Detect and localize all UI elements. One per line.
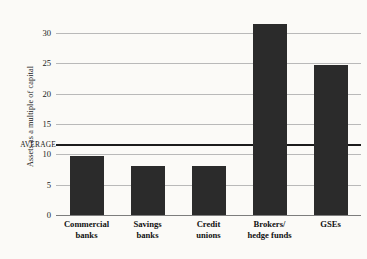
x-axis-line: 0 <box>56 215 361 216</box>
y-tick-label: 25 <box>42 58 51 68</box>
average-label: AVERAGE <box>20 140 56 149</box>
bar <box>314 65 348 215</box>
bar-chart: Assets as a multiple of capital 05101520… <box>0 0 367 259</box>
y-tick-label: 15 <box>42 119 51 129</box>
y-axis-title: Assets as a multiple of capital <box>26 22 35 212</box>
x-tick-label: Credit unions <box>178 219 239 240</box>
x-tick-label: Commercial banks <box>56 219 117 240</box>
x-tick-label: Savings banks <box>117 219 178 240</box>
bar <box>192 166 226 215</box>
bar <box>70 156 104 215</box>
x-tick-label: GSEs <box>300 219 361 230</box>
bar <box>253 24 287 215</box>
y-tick-label: 5 <box>47 180 51 190</box>
x-axis-labels: Commercial banksSavings banksCredit unio… <box>56 219 361 259</box>
y-tick-label: 30 <box>42 28 51 38</box>
y-tick-label: 20 <box>42 89 51 99</box>
bar <box>131 166 165 215</box>
y-tick-label: 10 <box>42 149 51 159</box>
x-tick-label: Brokers/ hedge funds <box>239 219 300 240</box>
plot-area: 051015202530 AVERAGE <box>56 18 361 215</box>
y-tick-label: 0 <box>47 210 51 220</box>
bars <box>56 18 361 215</box>
